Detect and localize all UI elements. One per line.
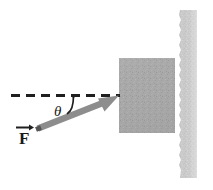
force-vector-arrow: [36, 96, 119, 130]
force-label: F: [19, 130, 29, 147]
physics-figure-canvas: θ F: [0, 0, 213, 190]
wall: [174, 10, 198, 178]
angle-label: θ: [54, 104, 61, 119]
block: [119, 58, 175, 133]
angle-arc: [68, 96, 74, 114]
figure-svg: [0, 0, 213, 190]
